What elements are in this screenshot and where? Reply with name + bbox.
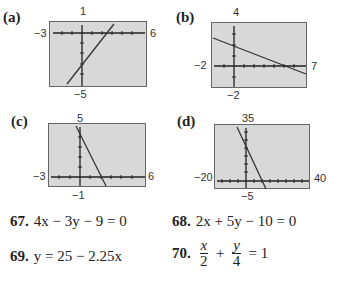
panel-b-xmin: −2 — [194, 59, 207, 71]
panel-a-graph — [49, 21, 147, 87]
exercise-70: 70. x 2 + y 4 = 1 — [172, 238, 268, 269]
exercise-69-number: 69. — [10, 248, 29, 264]
panel-c-plot — [49, 124, 147, 188]
panel-b-plot — [212, 23, 308, 89]
panel-c-label: (c) — [11, 113, 28, 130]
panel-a-plot — [50, 22, 148, 88]
exercise-68: 68.2x + 5y − 10 = 0 — [172, 213, 296, 230]
panel-d-xmin: −20 — [194, 171, 213, 183]
panel-d-label: (d) — [177, 113, 195, 130]
exercise-67-number: 67. — [10, 213, 29, 229]
fraction-x-over-2: x 2 — [200, 238, 209, 269]
panel-c-ymin: −1 — [72, 189, 85, 201]
graph-matching-exercise: (a) 1 −3 6 −5 (b) 4 −2 7 −2 — [0, 0, 338, 284]
panel-a-xmin: −3 — [34, 27, 47, 39]
panel-a-xmax: 6 — [150, 27, 156, 39]
exercise-67-equation: 4x − 3y − 9 = 0 — [34, 213, 127, 229]
panel-b-graph — [211, 22, 307, 88]
panel-a-label: (a) — [3, 9, 21, 26]
panel-c-graph — [48, 123, 146, 187]
panel-d-xmax: 40 — [314, 172, 326, 184]
exercise-69: 69.y = 25 − 2.25x — [10, 248, 122, 265]
fraction-y-over-4: y 4 — [232, 238, 241, 269]
panel-b-ymax: 4 — [233, 6, 239, 18]
panel-d-ymin: −5 — [241, 190, 254, 202]
panel-b-xmax: 7 — [311, 60, 317, 72]
equals-one: = 1 — [249, 245, 269, 261]
exercise-68-equation: 2x + 5y − 10 = 0 — [196, 213, 296, 229]
panel-c-xmin: −3 — [33, 170, 46, 182]
exercise-70-number: 70. — [172, 245, 191, 261]
panel-a-ymax: 1 — [80, 5, 86, 17]
plus-sign: + — [216, 245, 224, 261]
panel-d-ymax: 35 — [242, 112, 254, 124]
exercise-67: 67.4x − 3y − 9 = 0 — [10, 213, 127, 230]
exercise-69-equation: y = 25 − 2.25x — [34, 248, 122, 264]
panel-d-plot — [215, 125, 311, 190]
panel-c-xmax: 6 — [148, 170, 154, 182]
panel-b-label: (b) — [176, 9, 194, 26]
exercise-68-number: 68. — [172, 213, 191, 229]
panel-d-graph — [214, 124, 310, 189]
panel-b-ymin: −2 — [227, 89, 240, 101]
panel-a-ymin: −5 — [74, 88, 87, 100]
